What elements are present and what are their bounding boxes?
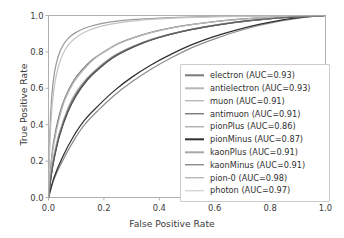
legend-line-icon — [185, 135, 204, 144]
legend-item-antimuon[interactable]: antimuon (AUC=0.91) — [185, 107, 325, 120]
legend-item-muon[interactable]: muon (AUC=0.91) — [185, 95, 325, 108]
legend-item-pion-0[interactable]: pion-0 (AUC=0.98) — [185, 171, 325, 184]
legend-item-pionPlus[interactable]: pionPlus (AUC=0.86) — [185, 120, 325, 133]
legend-label: kaonMinus (AUC=0.91) — [210, 161, 305, 169]
legend-line-icon — [185, 173, 204, 182]
legend-line-icon — [185, 71, 204, 80]
legend-label: pion-0 (AUC=0.98) — [210, 174, 287, 182]
legend-label: electron (AUC=0.93) — [210, 71, 295, 79]
x-tick-label: 0.4 — [153, 203, 166, 213]
chart-legend: electron (AUC=0.93)antielectron (AUC=0.9… — [180, 64, 330, 202]
legend-item-photon[interactable]: photon (AUC=0.97) — [185, 184, 325, 197]
x-tick-label: 0.0 — [42, 203, 55, 213]
legend-item-pionMinus[interactable]: pionMinus (AUC=0.87) — [185, 133, 325, 146]
legend-line-icon — [185, 148, 204, 157]
y-axis-label: True Positive Rate — [18, 35, 29, 175]
x-tick-label: 0.8 — [263, 203, 276, 213]
legend-label: pionMinus (AUC=0.87) — [210, 135, 303, 143]
x-tick-label: 1.0 — [319, 203, 332, 213]
legend-label: antielectron (AUC=0.93) — [210, 84, 311, 92]
x-tick-label: 0.2 — [97, 203, 110, 213]
legend-label: photon (AUC=0.97) — [210, 186, 290, 194]
legend-line-icon — [185, 109, 204, 118]
legend-label: kaonPlus (AUC=0.91) — [210, 148, 298, 156]
y-tick-label: 0.0 — [21, 193, 44, 203]
legend-item-antielectron[interactable]: antielectron (AUC=0.93) — [185, 82, 325, 95]
legend-item-kaonMinus[interactable]: kaonMinus (AUC=0.91) — [185, 159, 325, 172]
legend-line-icon — [185, 160, 204, 169]
legend-line-icon — [185, 84, 204, 93]
x-tick-label: 0.6 — [208, 203, 221, 213]
legend-label: pionPlus (AUC=0.86) — [210, 122, 296, 130]
x-axis-label: False Positive Rate — [0, 218, 344, 229]
legend-line-icon — [185, 122, 204, 131]
y-tick-label: 1.0 — [21, 11, 44, 21]
legend-label: muon (AUC=0.91) — [210, 97, 285, 105]
legend-line-icon — [185, 186, 204, 195]
legend-line-icon — [185, 96, 204, 105]
legend-item-kaonPlus[interactable]: kaonPlus (AUC=0.91) — [185, 146, 325, 159]
legend-label: antimuon (AUC=0.91) — [210, 110, 300, 118]
roc-curve-figure: 0.00.20.40.60.81.0 0.00.20.40.60.81.0 Fa… — [0, 0, 344, 238]
legend-item-electron[interactable]: electron (AUC=0.93) — [185, 69, 325, 82]
